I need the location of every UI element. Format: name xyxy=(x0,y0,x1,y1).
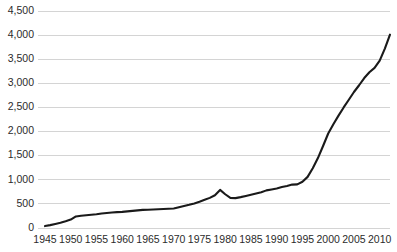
x-axis-tick-label: 1945 xyxy=(33,233,57,245)
y-axis-tick-label: 2,000 xyxy=(8,124,34,136)
y-axis-tick-label: 1,500 xyxy=(8,148,34,160)
x-axis-tick-label: 1995 xyxy=(291,233,315,245)
y-axis-tick-label: 3,500 xyxy=(8,52,34,64)
x-axis-tick-label: 1980 xyxy=(214,233,238,245)
x-axis-tick-label: 1985 xyxy=(239,233,263,245)
x-axis-tick-label: 2010 xyxy=(368,233,392,245)
y-axis-labels: 05001,0001,5002,0002,5003,0003,5004,0004… xyxy=(8,4,34,233)
line-chart: 05001,0001,5002,0002,5003,0003,5004,0004… xyxy=(0,0,397,252)
y-axis-tick-label: 2,500 xyxy=(8,100,34,112)
x-axis-tick-label: 2005 xyxy=(342,233,366,245)
y-axis-tick-label: 4,000 xyxy=(8,28,34,40)
y-axis-tick-label: 3,000 xyxy=(8,76,34,88)
y-axis-tick-label: 0 xyxy=(28,221,34,233)
x-axis-labels: 1945195019551960196519701975198019851990… xyxy=(33,233,391,245)
x-axis-tick-label: 1965 xyxy=(136,233,160,245)
x-axis-tick-label: 2000 xyxy=(317,233,341,245)
chart-canvas: 05001,0001,5002,0002,5003,0003,5004,0004… xyxy=(0,0,397,252)
x-axis-tick-label: 1975 xyxy=(188,233,212,245)
data-line-series-1 xyxy=(45,35,390,226)
y-axis-tick-label: 4,500 xyxy=(8,4,34,16)
gridlines xyxy=(45,11,390,228)
x-axis-tick-label: 1970 xyxy=(162,233,186,245)
y-axis-ticks xyxy=(38,11,45,228)
x-axis-tick-label: 1960 xyxy=(111,233,135,245)
x-axis-tick-label: 1990 xyxy=(265,233,289,245)
x-axis-tick-label: 1955 xyxy=(85,233,109,245)
y-axis-tick-label: 1,000 xyxy=(8,173,34,185)
y-axis-tick-label: 500 xyxy=(16,197,34,209)
x-axis-tick-label: 1950 xyxy=(59,233,83,245)
